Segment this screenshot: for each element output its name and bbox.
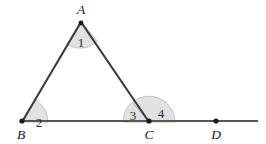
angle-sectors xyxy=(22,22,175,122)
segment-ab xyxy=(22,22,81,122)
angle-label-2: 2 xyxy=(36,115,43,130)
vertex-dots xyxy=(19,21,218,124)
point-label-d: D xyxy=(210,127,221,142)
angle-label-3: 3 xyxy=(130,108,137,123)
vertex-dot-d xyxy=(213,118,218,123)
vertex-dot-a xyxy=(79,21,84,26)
figure-segments xyxy=(22,22,258,122)
point-label-a: A xyxy=(76,2,86,17)
vertex-dot-c xyxy=(146,118,151,123)
segment-ac xyxy=(81,22,149,122)
vertex-dot-b xyxy=(19,118,24,123)
angle-label-1: 1 xyxy=(78,35,85,50)
angle-label-4: 4 xyxy=(158,106,165,121)
point-label-c: C xyxy=(144,127,154,142)
geometry-figure-canvas: A B C D 1 2 3 4 xyxy=(0,0,266,144)
geometry-diagram: A B C D 1 2 3 4 xyxy=(0,0,266,144)
point-label-b: B xyxy=(17,127,25,142)
